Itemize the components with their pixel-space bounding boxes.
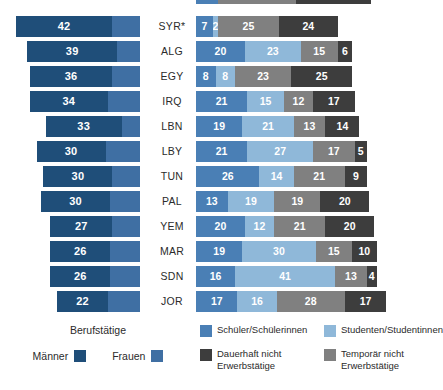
bar-segment-temporaer-nicht: 12 [284,91,313,112]
bar-segment-maenner: 34 [30,91,108,112]
legend-swatch-maenner [74,350,86,362]
bar-segment-maenner: 26 [50,241,110,262]
bar-value-schueler: 20 [215,221,227,232]
chart-row: 34IRQ21151217 [0,89,443,114]
gender-bar: 22 [57,291,140,312]
bar-value-maenner: 42 [58,21,71,32]
bar-segment-temporaer-nicht: 21 [294,166,345,187]
status-stacked-bar: 2023156 [196,41,352,62]
bar-value-studenten: 27 [274,146,286,157]
bar-value-temporaer-nicht: 23 [257,71,269,82]
bar-segment-schueler: 13 [196,191,228,212]
chart-container: 42SYR*72252439ALG202315636EGY88232534IRQ… [0,0,443,390]
gender-bar: 33 [46,116,140,137]
bar-value-temporaer-nicht: 17 [328,146,340,157]
country-label: ALG [150,41,194,62]
bar-value-dauerhaft-nicht: 25 [316,71,328,82]
bar-segment-frauen [112,166,140,187]
legend-swatch-frauen [151,350,163,362]
bar-value-schueler: 7 [202,21,208,32]
gender-bar: 34 [30,91,140,112]
bar-value-studenten: 41 [279,271,291,282]
bar-segment-studenten: 15 [247,91,284,112]
left-bar-track: 34 [0,91,140,112]
country-label: YEM [150,216,194,237]
bar-value-schueler: 26 [222,171,234,182]
bar-segment-frauen [122,116,140,137]
country-label: MAR [150,241,194,262]
bar-value-dauerhaft-nicht: 20 [339,196,351,207]
status-stacked-bar: 13191920 [196,191,369,212]
bar-segment-frauen [112,16,140,37]
bar-segment-studenten: 12 [245,216,274,237]
bar-value-maenner: 36 [65,71,78,82]
bar-value-dauerhaft-nicht: 5 [358,146,364,157]
status-stacked-bar: 1641134 [196,266,377,287]
gender-bar: 30 [37,141,141,162]
chart-row: 26SDN1641134 [0,264,443,289]
bar-value-dauerhaft-nicht: 10 [358,246,370,257]
left-bar-track: 22 [0,291,140,312]
bar-segment-maenner: 22 [57,291,108,312]
country-label: SDN [150,266,194,287]
bar-segment-studenten: 16 [237,291,276,312]
left-bar-track: 30 [0,191,140,212]
legend-item-frauen: Frauen [112,350,163,362]
left-bar-track: 36 [0,66,140,87]
bar-segment-studenten: 21 [242,116,293,137]
bar-value-dauerhaft-nicht: 20 [344,221,356,232]
bar-value-maenner: 39 [66,46,79,57]
bar-segment-schueler: 16 [196,266,235,287]
gender-bar: 42 [16,16,140,37]
bar-value-studenten: 12 [254,221,266,232]
bar-segment-frauen [117,41,140,62]
chart-row: 42SYR*722524 [0,14,443,39]
bar-value-dauerhaft-nicht: 24 [302,21,314,32]
chart-row: 22JOR17162817 [0,289,443,314]
legend-item-dauerhaft: Dauerhaft nicht Erwerbstätige [200,348,281,371]
bar-segment-dauerhaft-nicht: 17 [313,91,354,112]
country-label: LBY [150,141,194,162]
left-bar-track: 26 [0,266,140,287]
bar-value-temporaer-nicht: 15 [313,46,325,57]
country-label: PAL [150,191,194,212]
left-bar-track: 42 [0,16,140,37]
left-bar-track: 33 [0,116,140,137]
bar-segment-temporaer-nicht: 21 [274,216,325,237]
bar-segment-dauerhaft-nicht: 5 [355,141,367,162]
bar-segment-studenten: 19 [228,191,274,212]
bar-value-studenten: 16 [251,296,263,307]
top-cutoff-segment [218,0,296,4]
right-bar-track: 17162817 [196,291,440,312]
bar-segment-schueler: 21 [196,91,247,112]
gender-bar: 27 [50,216,140,237]
bar-value-dauerhaft-nicht: 9 [353,171,359,182]
bar-segment-temporaer-nicht: 15 [301,41,338,62]
legend-employed-title: Berufstätige [0,324,196,336]
bar-segment-dauerhaft-nicht: 20 [320,191,369,212]
bar-segment-studenten: 8 [216,66,236,87]
gender-bar: 26 [50,266,140,287]
status-stacked-bar: 722524 [196,16,338,37]
left-bar-track: 39 [0,41,140,62]
bar-segment-dauerhaft-nicht: 17 [345,291,386,312]
bar-value-temporaer-nicht: 25 [243,21,255,32]
bar-segment-schueler: 19 [196,116,242,137]
legend-employed-group: Berufstätige Männer Frauen [0,322,196,362]
bar-segment-schueler: 8 [196,66,216,87]
chart-row: 33LBN19211314 [0,114,443,139]
bar-value-schueler: 19 [213,121,225,132]
bar-value-temporaer-nicht: 21 [313,171,325,182]
bar-value-maenner: 33 [77,121,90,132]
chart-row: 30PAL13191920 [0,189,443,214]
status-stacked-bar: 20122120 [196,216,374,237]
bar-value-maenner: 30 [69,196,82,207]
left-bar-track: 26 [0,241,140,262]
bar-segment-dauerhaft-nicht: 25 [291,66,352,87]
bar-value-temporaer-nicht: 12 [293,96,305,107]
bar-value-dauerhaft-nicht: 14 [337,121,349,132]
bar-segment-frauen [110,191,140,212]
left-bar-track: 30 [0,141,140,162]
right-bar-track: 2127175 [196,141,440,162]
bar-value-schueler: 16 [210,271,222,282]
